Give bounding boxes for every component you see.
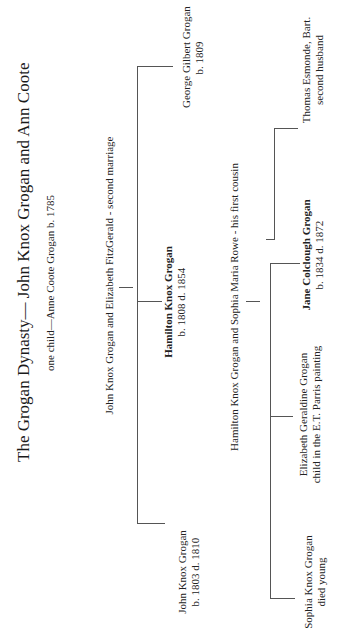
branch-george	[137, 66, 173, 67]
connector-stub	[119, 287, 133, 288]
person-elizabeth-geraldine-grogan: Elizabeth Geraldine Grogan child in the …	[297, 337, 322, 492]
person-name: Elizabeth Geraldine Grogan	[297, 337, 310, 492]
person-dates: b. 1834 d. 1872	[313, 185, 326, 325]
second-marriage-label: John Knox Grogan and Elizabeth FitzGeral…	[103, 133, 116, 418]
bracket-spouse-vertical	[274, 128, 275, 240]
person-note: second husband	[313, 5, 326, 135]
person-name: John Knox Grogan	[176, 527, 189, 617]
person-jane-colclough-grogan: Jane Colclough Grogan b. 1834 d. 1872	[300, 185, 325, 325]
branch-john	[137, 523, 165, 524]
person-name: Jane Colclough Grogan	[300, 185, 313, 325]
person-dates: b. 1808 d. 1854	[175, 242, 188, 362]
hamilton-marriage-label: Hamilton Knox Grogan and Sophia Maria Ro…	[228, 152, 241, 462]
person-sophia-knox-grogan: Sophia Knox Grogan died young	[302, 532, 327, 632]
person-note: died young	[315, 532, 328, 632]
bracket-vertical	[137, 66, 138, 524]
person-name: George Gilbert Grogan	[180, 8, 193, 108]
diagram-title: The Grogan Dynasty— John Knox Grogan and…	[14, 112, 34, 462]
branch-thomas	[274, 128, 298, 129]
subtitle-first-marriage: one child—Anne Coote Grogan b. 1785	[44, 183, 57, 383]
branch-jane	[270, 263, 300, 264]
branch-elizabeth	[270, 416, 293, 417]
person-note: child in the E.T. Parris painting	[310, 337, 323, 492]
person-george-gilbert-grogan: George Gilbert Grogan b. 1809	[180, 8, 205, 108]
branch-hamilton	[137, 301, 162, 302]
connector-stub-children	[246, 301, 260, 302]
branch-sophia	[270, 598, 295, 599]
person-john-knox-grogan: John Knox Grogan b. 1803 d. 1810	[176, 527, 201, 617]
person-name: Sophia Knox Grogan	[302, 532, 315, 632]
person-thomas-esmonde: Thomas Esmonde, Bart. second husband	[300, 5, 325, 135]
person-name: Hamilton Knox Grogan	[162, 242, 175, 362]
bracket-children-vertical	[270, 263, 271, 599]
person-dates: b. 1809	[193, 8, 206, 108]
person-name: Thomas Esmonde, Bart.	[300, 5, 313, 135]
person-hamilton-knox-grogan: Hamilton Knox Grogan b. 1808 d. 1854	[162, 242, 187, 362]
person-dates: b. 1803 d. 1810	[189, 527, 202, 617]
